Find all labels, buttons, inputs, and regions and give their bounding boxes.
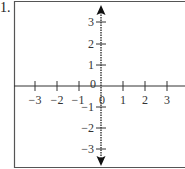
x-axis	[14, 81, 185, 91]
y-tick-label: 0	[90, 77, 96, 91]
y-tick-label: 2	[88, 37, 94, 51]
y-tick-label: −2	[81, 121, 94, 135]
y-tick-label: −1	[81, 100, 94, 114]
x-tick-label: 1	[120, 93, 126, 107]
x-tick-label: 2	[142, 93, 148, 107]
x-tick-label: −3	[29, 93, 42, 107]
x-tick-label: 0	[99, 93, 105, 107]
y-tick-label: 1	[88, 58, 94, 72]
plot-frame	[14, 1, 185, 168]
x-tick-label: −2	[51, 93, 64, 107]
y-tick-label: 3	[88, 15, 94, 29]
y-tick-label: −3	[81, 142, 94, 156]
x-tick-label: 3	[164, 93, 170, 107]
coordinate-plane: −3 −2 −1 0 1 2 3 3 2 1 0 −1 −2 −3	[0, 0, 185, 169]
x-tick-labels: −3 −2 −1 0 1 2 3	[29, 93, 170, 107]
